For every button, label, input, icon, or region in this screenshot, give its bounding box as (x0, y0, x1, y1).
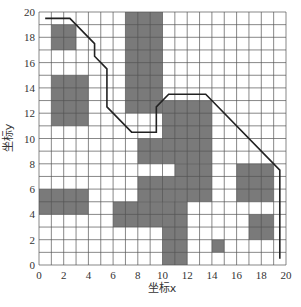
obstacle-block (175, 164, 212, 202)
x-tick-label: 10 (157, 269, 169, 281)
y-tick-label: 18 (24, 31, 36, 43)
x-axis-ticks: 02468101214161820 (36, 269, 292, 281)
y-axis-label: 坐标y (1, 123, 15, 152)
x-tick-label: 4 (86, 269, 92, 281)
y-tick-label: 20 (24, 6, 36, 18)
y-tick-label: 10 (24, 133, 36, 145)
x-tick-label: 12 (182, 269, 193, 281)
x-axis-label: 坐标x (148, 281, 177, 295)
y-tick-label: 8 (30, 158, 36, 170)
y-tick-label: 14 (24, 82, 36, 94)
y-tick-label: 16 (24, 57, 36, 69)
obstacle-block (237, 164, 274, 202)
y-axis-ticks: 02468101214161820 (24, 6, 36, 271)
y-tick-label: 6 (30, 183, 36, 195)
x-tick-label: 0 (36, 269, 42, 281)
y-tick-label: 2 (30, 234, 36, 246)
y-tick-label: 0 (30, 259, 36, 271)
x-tick-label: 6 (110, 269, 116, 281)
x-tick-label: 20 (281, 269, 293, 281)
x-tick-label: 18 (256, 269, 268, 281)
grid-path-diagram: 02468101214161820 02468101214161820 坐标x … (0, 0, 301, 307)
x-tick-label: 8 (135, 269, 141, 281)
x-tick-label: 16 (231, 269, 243, 281)
y-tick-label: 4 (30, 208, 36, 220)
x-tick-label: 14 (206, 269, 218, 281)
y-tick-label: 12 (24, 107, 35, 119)
obstacle-block (212, 240, 224, 253)
x-tick-label: 2 (61, 269, 67, 281)
